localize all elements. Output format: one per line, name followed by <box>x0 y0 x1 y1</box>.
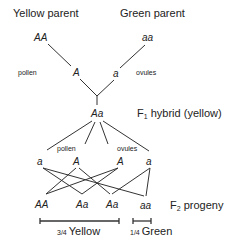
f2-genotype-1: AA <box>34 199 49 210</box>
f1-pollen-label: pollen <box>57 145 76 153</box>
green-ratio-label: 1/4Green <box>130 225 172 237</box>
f1-gamete-4: a <box>146 156 152 167</box>
f2-genotype-4: aa <box>140 200 152 211</box>
p-ovules-label: ovules <box>136 69 157 76</box>
genetics-cross-diagram: Yellow parent Green parent AA aa pollen … <box>0 0 233 250</box>
green-parent-genotype: aa <box>142 32 154 43</box>
p-pollen-label: pollen <box>18 69 37 77</box>
yellow-parent-label: Yellow parent <box>13 7 79 19</box>
f1-gamete-3: A <box>116 156 124 167</box>
f2-genotype-2: Aa <box>75 199 89 210</box>
f1-ovules-label: ovules <box>117 145 138 152</box>
ratio-bars <box>40 218 151 224</box>
f2-genotype-3: Aa <box>105 199 119 210</box>
f2-label: F2 progeny <box>170 199 224 212</box>
parent-gamete-lines <box>48 44 145 105</box>
f2-cross-lines <box>43 168 150 196</box>
f1-genotype: Aa <box>90 108 104 119</box>
f1-label: F1 hybrid (yellow) <box>137 107 222 120</box>
yellow-parent-genotype: AA <box>33 32 48 43</box>
yellow-ratio-label: 3/4Yellow <box>57 225 100 237</box>
p-ovule-allele: a <box>113 68 119 79</box>
f1-gamete-2: A <box>72 156 80 167</box>
p-pollen-allele: A <box>72 67 80 78</box>
green-parent-label: Green parent <box>120 7 185 19</box>
f1-gamete-1: a <box>37 156 43 167</box>
